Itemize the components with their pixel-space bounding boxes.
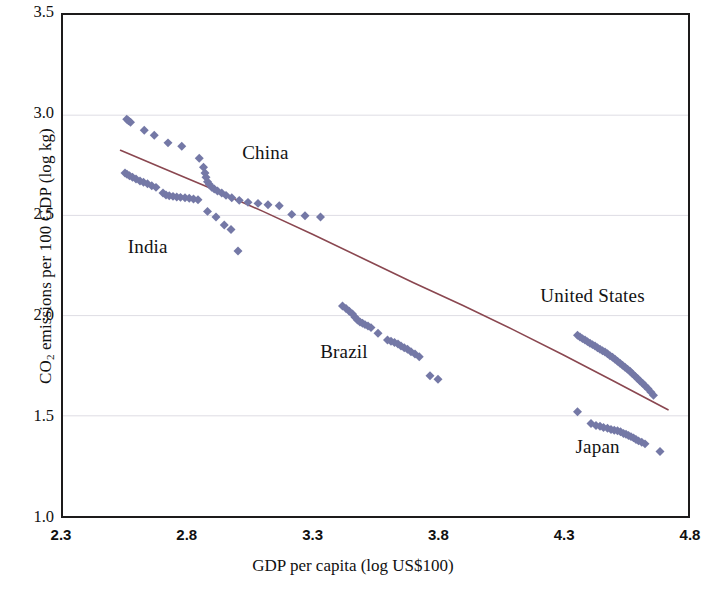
annotation-india: India: [128, 236, 168, 258]
trendline: [121, 150, 668, 410]
x-tick-label: 3.3: [283, 527, 343, 542]
data-point-marker: [203, 207, 212, 216]
data-point-marker: [374, 329, 383, 338]
data-point-marker: [177, 142, 186, 151]
data-point-marker: [234, 247, 243, 256]
y-tick-label: 3.5: [8, 4, 54, 21]
data-point-marker: [434, 375, 443, 384]
y-axis-tick-labels: 1.01.52.02.53.03.5: [6, 0, 54, 589]
data-point-marker: [656, 447, 665, 456]
data-point-marker: [426, 371, 435, 380]
y-tick-label: 2.0: [8, 307, 54, 324]
x-tick-label: 2.3: [31, 527, 91, 542]
data-point-marker: [301, 211, 310, 220]
series-china: [122, 115, 325, 222]
data-point-marker: [235, 196, 244, 205]
data-point-marker: [150, 131, 159, 140]
y-tick-label: 2.5: [8, 206, 54, 223]
x-tick-label: 2.8: [157, 527, 217, 542]
y-tick-label: 1.5: [8, 408, 54, 425]
y-tick-label: 1.0: [8, 509, 54, 526]
data-point-marker: [573, 407, 582, 416]
data-point-marker: [212, 213, 221, 222]
annotation-united-states: United States: [540, 285, 644, 307]
chart-figure: CO2 emissions per 100 GDP (log kg) 1.01.…: [0, 0, 706, 589]
x-axis-title: GDP per capita (log US$100): [0, 556, 706, 576]
x-tick-label: 4.8: [660, 527, 706, 542]
x-tick-label: 4.3: [534, 527, 594, 542]
data-point-marker: [254, 199, 263, 208]
annotation-japan: Japan: [576, 436, 620, 458]
annotation-brazil: Brazil: [320, 341, 368, 363]
trendline-path: [121, 150, 668, 410]
x-tick-label: 3.8: [408, 527, 468, 542]
data-point-marker: [287, 210, 296, 219]
annotation-china: China: [242, 142, 288, 164]
series-united-states: [573, 331, 658, 400]
data-point-marker: [220, 221, 229, 230]
data-point-marker: [275, 201, 284, 210]
data-point-marker: [264, 200, 273, 209]
data-point-marker: [140, 126, 149, 135]
y-tick-label: 3.0: [8, 105, 54, 122]
data-point-marker: [227, 225, 236, 234]
data-point-marker: [164, 138, 173, 147]
data-point-marker: [195, 154, 204, 163]
data-point-marker: [316, 213, 325, 222]
